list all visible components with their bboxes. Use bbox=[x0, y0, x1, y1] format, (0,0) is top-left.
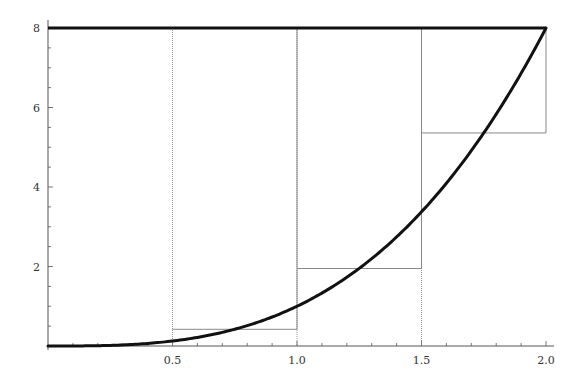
y-tick-label: 6 bbox=[33, 102, 40, 115]
x-tick-label: 1.5 bbox=[413, 354, 431, 367]
x-tick-label: 1.0 bbox=[288, 354, 306, 367]
tick-labels: 0.51.01.52.02468 bbox=[33, 22, 555, 367]
x-tick-label: 0.5 bbox=[164, 354, 182, 367]
x-tick-label: 2.0 bbox=[537, 354, 555, 367]
chart-canvas: 0.51.01.52.02468 bbox=[0, 0, 585, 390]
y-tick-label: 4 bbox=[33, 181, 40, 194]
y-tick-label: 8 bbox=[33, 22, 40, 35]
riemann-rectangles bbox=[173, 28, 547, 346]
axes bbox=[48, 20, 554, 350]
y-tick-label: 2 bbox=[33, 261, 40, 274]
